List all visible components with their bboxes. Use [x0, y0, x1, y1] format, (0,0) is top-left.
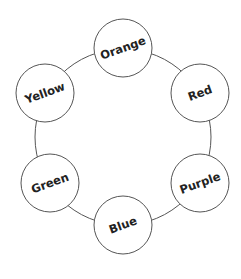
node-orange: Orange: [94, 19, 152, 77]
node-purple: Purple: [171, 154, 229, 212]
node-green: Green: [21, 154, 79, 212]
cycle-diagram: OrangeRedPurpleBlueGreenYellow: [0, 0, 241, 279]
node-blue: Blue: [94, 196, 152, 254]
node-red: Red: [171, 64, 229, 122]
node-yellow: Yellow: [16, 64, 74, 122]
cycle-nodes: OrangeRedPurpleBlueGreenYellow: [16, 19, 229, 254]
